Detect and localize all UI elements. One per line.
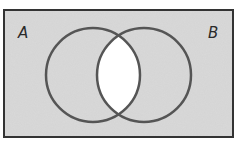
set-a-label: A <box>17 24 28 42</box>
set-b-label: B <box>208 24 218 42</box>
venn-diagram: A B <box>0 0 235 143</box>
